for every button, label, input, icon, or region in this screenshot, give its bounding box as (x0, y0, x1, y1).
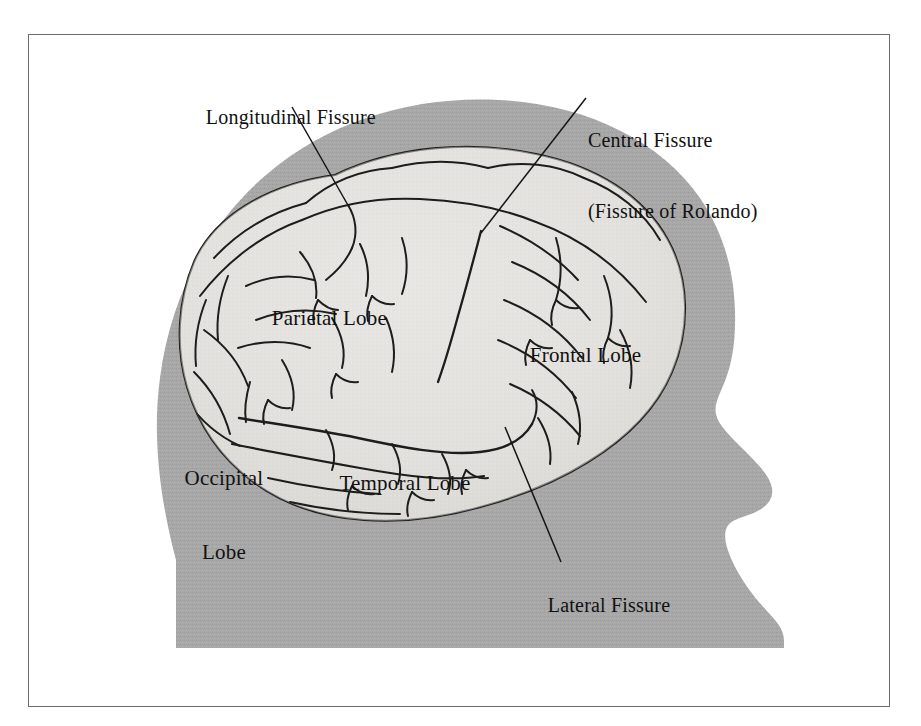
label-lateral-fissure: Lateral Fissure (527, 570, 670, 641)
label-frontal-lobe: Frontal Lobe (508, 318, 641, 392)
label-longitudinal-fissure: Longitudinal Fissure (185, 82, 376, 153)
label-occipital-lobe-line2: Lobe (170, 540, 278, 565)
label-parietal-lobe: Parietal Lobe (250, 281, 387, 355)
label-longitudinal-fissure-text: Longitudinal Fissure (206, 106, 376, 128)
label-temporal-lobe: Temporal Lobe (318, 446, 471, 520)
label-central-fissure-line2: (Fissure of Rolando) (588, 200, 758, 224)
label-frontal-lobe-text: Frontal Lobe (530, 343, 641, 367)
label-central-fissure: Central Fissure (Fissure of Rolando) (588, 82, 758, 271)
brain-diagram-illustration (0, 0, 921, 726)
label-occipital-lobe-line1: Occipital (170, 466, 278, 491)
label-lateral-fissure-text: Lateral Fissure (548, 594, 670, 616)
label-temporal-lobe-text: Temporal Lobe (339, 471, 470, 495)
label-central-fissure-line1: Central Fissure (588, 129, 758, 153)
figure-root: Longitudinal Fissure Central Fissure (Fi… (0, 0, 921, 726)
label-occipital-lobe: Occipital Lobe (170, 416, 278, 614)
label-parietal-lobe-text: Parietal Lobe (272, 306, 387, 330)
